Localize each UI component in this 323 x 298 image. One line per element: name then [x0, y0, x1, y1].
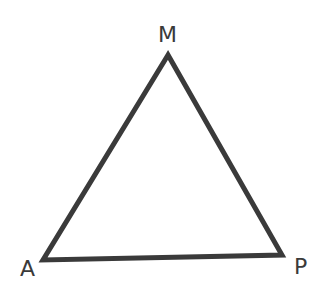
vertex-label-a: A [20, 256, 35, 281]
vertex-label-m: M [158, 22, 177, 47]
triangle-diagram: M A P [0, 0, 323, 298]
triangle-shape [43, 55, 282, 260]
vertex-label-p: P [294, 254, 307, 279]
